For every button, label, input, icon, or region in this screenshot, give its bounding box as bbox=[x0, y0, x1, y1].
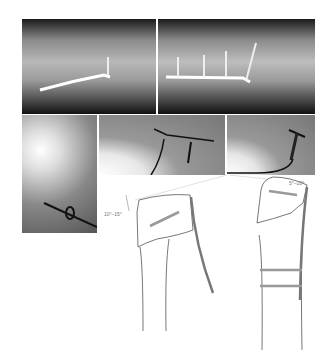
kwire-icon bbox=[22, 115, 97, 233]
xray-panel-2 bbox=[158, 19, 315, 114]
plate-implant-icon bbox=[22, 19, 156, 114]
angle-label-left: 10°–15° bbox=[104, 211, 122, 217]
wire-fixation-icon bbox=[99, 115, 225, 175]
plate-screws-icon bbox=[158, 19, 315, 114]
xray-panel-5 bbox=[227, 115, 315, 175]
xray-panel-3 bbox=[22, 115, 97, 233]
xray-panel-1 bbox=[22, 19, 156, 114]
radius-diagram bbox=[95, 175, 333, 359]
xray-panel-4 bbox=[99, 115, 225, 175]
angle-label-right: 5°–10° bbox=[289, 180, 304, 186]
plate-fixation-icon bbox=[227, 115, 315, 175]
